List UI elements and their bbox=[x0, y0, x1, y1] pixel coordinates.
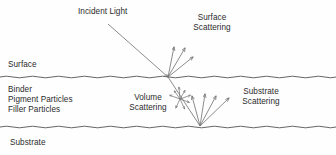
label-filler-particles: Filler Particles bbox=[8, 105, 60, 115]
incident-ray bbox=[108, 24, 168, 77]
label-surface: Surface bbox=[8, 60, 37, 70]
label-volume-scattering: Volume Scattering bbox=[121, 93, 175, 112]
label-binder: Binder bbox=[8, 85, 32, 95]
label-substrate: Substrate bbox=[10, 138, 46, 148]
substrate-scatter-ray-4 bbox=[200, 98, 229, 126]
label-volume-scattering-line2: Scattering bbox=[121, 103, 175, 113]
label-incident-light: Incident Light bbox=[78, 7, 127, 17]
diagram-canvas bbox=[0, 0, 336, 155]
label-substrate-scattering-line2: Scattering bbox=[230, 97, 292, 107]
label-surface-scattering: Surface Scattering bbox=[183, 13, 241, 32]
label-substrate-scattering-line1: Substrate bbox=[230, 87, 292, 97]
label-volume-scattering-line1: Volume bbox=[121, 93, 175, 103]
label-pigment-particles: Pigment Particles bbox=[8, 95, 73, 105]
volume-scatter-ray-8 bbox=[176, 99, 180, 108]
scattering-diagram: Incident Light Surface Scattering Surfac… bbox=[0, 0, 336, 155]
label-substrate-scattering: Substrate Scattering bbox=[230, 87, 292, 106]
label-surface-scattering-line2: Scattering bbox=[183, 23, 241, 33]
substrate-scatter-ray-1 bbox=[192, 96, 200, 126]
label-surface-scattering-line1: Surface bbox=[183, 13, 241, 23]
substrate-boundary bbox=[0, 126, 336, 128]
